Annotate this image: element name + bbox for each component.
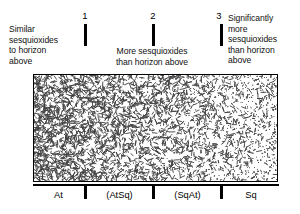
scale-number-3: 3: [213, 11, 225, 21]
scale-number-1: 1: [79, 11, 91, 21]
scale-number-2: 2: [147, 11, 159, 21]
scale-tick-3: [220, 24, 223, 46]
note-significantly-more-sesquioxides: Significantly more sesquioxides than hor…: [228, 13, 300, 66]
axis-line: [33, 184, 279, 186]
texture-gradient-graphic: [34, 75, 277, 181]
axis-label-sqat: (SqAt): [155, 190, 220, 201]
note-similar-sesquioxides: Similar sesquioxides to horizon above: [9, 24, 83, 66]
note-more-sesquioxides: More sesquioxides than horizon above: [91, 46, 213, 67]
scale-tick-1: [84, 24, 87, 46]
texture-panel: [33, 74, 278, 182]
axis-label-atsq: (AtSq): [87, 190, 152, 201]
figure-sesquioxide-scale: Similar sesquioxides to horizon above Mo…: [0, 0, 300, 214]
axis-label-sq: Sq: [223, 190, 279, 201]
scale-tick-2: [152, 24, 155, 46]
axis-label-at: At: [33, 190, 84, 201]
